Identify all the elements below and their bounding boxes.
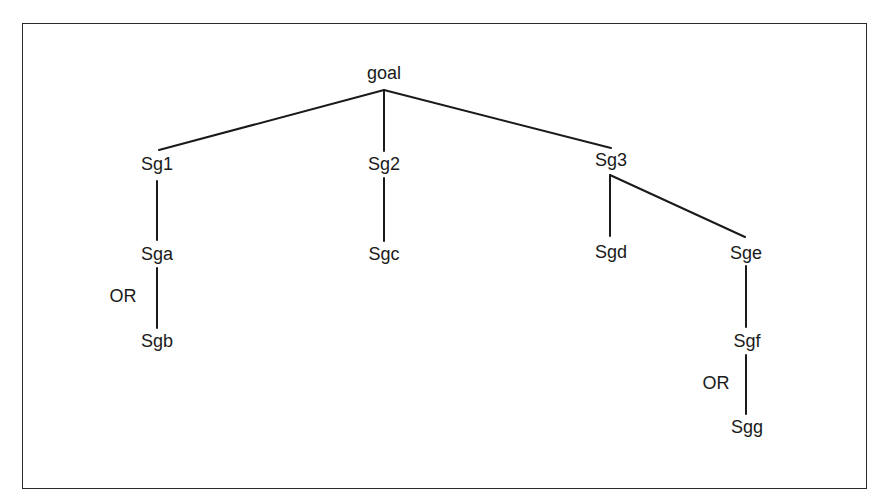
node-sgd: Sgd <box>595 243 627 261</box>
node-sga: Sga <box>141 245 173 263</box>
edge-goal-sg1 <box>159 90 384 150</box>
node-sgg: Sgg <box>731 418 763 436</box>
edge-goal-sg3 <box>384 90 611 148</box>
or-label-sga-sgb: OR <box>110 287 137 305</box>
node-sge: Sge <box>730 244 762 262</box>
or-label-sgf-sgg: OR <box>703 374 730 392</box>
node-sgb: Sgb <box>141 332 173 350</box>
node-sgc: Sgc <box>368 245 399 263</box>
edge-sg3-sge <box>610 175 745 237</box>
node-sg1: Sg1 <box>141 155 173 173</box>
node-sg3: Sg3 <box>595 151 627 169</box>
node-goal: goal <box>367 64 401 82</box>
node-sg2: Sg2 <box>368 155 400 173</box>
node-sgf: Sgf <box>733 332 760 350</box>
